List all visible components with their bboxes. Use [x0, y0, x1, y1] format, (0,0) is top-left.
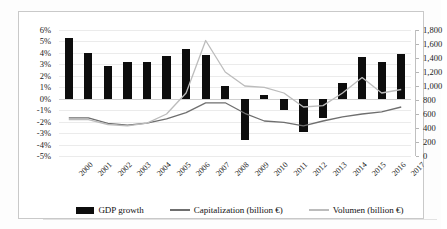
legend-item[interactable]: GDP growth [76, 205, 143, 215]
x-tick-label-2011: 2011 [292, 161, 309, 178]
y-right-tick-label: 0 [423, 152, 447, 161]
y-left-tick-label: 4% [25, 49, 51, 58]
legend-label: Capitalization (billion €) [194, 205, 283, 215]
y-right-tick [416, 100, 419, 101]
y-right-tick [416, 58, 419, 59]
y-right-tick [416, 128, 419, 129]
y-left-tick-label: -2% [25, 118, 51, 127]
y-right-tick-label: 600 [423, 110, 447, 119]
x-tick-label-2008: 2008 [234, 161, 251, 178]
x-tick-label-2013: 2013 [332, 161, 349, 178]
x-tick-label-2017: 2017 [410, 161, 427, 178]
x-tick-label-2016: 2016 [390, 161, 407, 178]
plot-area [59, 30, 411, 156]
y-right-tick-label: 800 [423, 96, 447, 105]
legend-line-swatch-icon [170, 209, 190, 211]
y-left-tick-label: -1% [25, 106, 51, 115]
y-right-tick [416, 142, 419, 143]
line-volumen [69, 41, 401, 126]
x-tick-label-2010: 2010 [273, 161, 290, 178]
legend-separator [43, 219, 437, 220]
y-left-tick-label: -5% [25, 152, 51, 161]
x-tick-label-2012: 2012 [312, 161, 329, 178]
y-left-tick-label: 3% [25, 60, 51, 69]
x-tick-label-2015: 2015 [371, 161, 388, 178]
legend-label: GDP growth [98, 205, 143, 215]
y-right-tick-label: 1,200 [423, 68, 447, 77]
y-left-tick-label: -3% [25, 129, 51, 138]
x-tick-label-2007: 2007 [214, 161, 231, 178]
gridline [59, 156, 411, 157]
x-tick-label-2005: 2005 [175, 161, 192, 178]
y-right-tick-label: 200 [423, 138, 447, 147]
y-left-tick-label: -4% [25, 141, 51, 150]
chart-frame: 6%5%4%3%2%1%0%-1%-2%-3%-4%-5% 1,8001,600… [18, 11, 424, 219]
line-series-layer [59, 30, 411, 156]
y-left-tick-label: 6% [25, 26, 51, 35]
y-axis-right-line [415, 30, 416, 156]
y-left-tick-label: 5% [25, 37, 51, 46]
x-tick-label-2000: 2000 [77, 161, 94, 178]
y-right-tick [416, 114, 419, 115]
y-right-tick-label: 1,800 [423, 26, 447, 35]
legend-item[interactable]: Capitalization (billion €) [170, 205, 283, 215]
y-left-tick-label: 2% [25, 72, 51, 81]
y-right-tick [416, 156, 419, 157]
x-tick-label-2004: 2004 [156, 161, 173, 178]
line-capitalization [69, 103, 401, 126]
x-tick-label-2006: 2006 [195, 161, 212, 178]
x-tick-label-2014: 2014 [351, 161, 368, 178]
y-right-tick [416, 86, 419, 87]
x-tick-label-2003: 2003 [136, 161, 153, 178]
legend-label: Volumen (billion €) [333, 205, 404, 215]
y-right-tick-label: 1,600 [423, 40, 447, 49]
y-right-tick [416, 30, 419, 31]
legend-item[interactable]: Volumen (billion €) [309, 205, 404, 215]
x-tick-label-2009: 2009 [253, 161, 270, 178]
legend-bar-swatch-icon [76, 207, 94, 214]
y-right-tick-label: 1,000 [423, 82, 447, 91]
chart-legend: GDP growthCapitalization (billion €)Volu… [37, 202, 443, 218]
legend-line-swatch-icon [309, 209, 329, 211]
y-right-tick-label: 1,400 [423, 54, 447, 63]
x-tick-label-2001: 2001 [97, 161, 114, 178]
x-tick-label-2002: 2002 [117, 161, 134, 178]
y-left-tick-label: 1% [25, 83, 51, 92]
y-right-tick-label: 400 [423, 124, 447, 133]
y-left-tick-label: 0% [25, 95, 51, 104]
y-right-tick [416, 72, 419, 73]
y-right-tick [416, 44, 419, 45]
